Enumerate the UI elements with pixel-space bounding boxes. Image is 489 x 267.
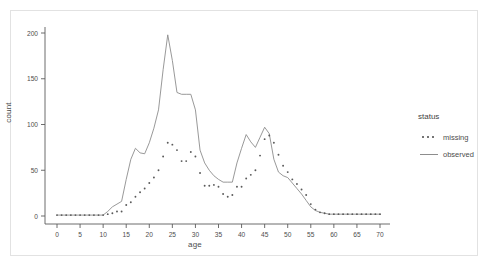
- x-axis-label: age: [0, 240, 390, 249]
- svg-text:60: 60: [330, 231, 338, 238]
- plot-svg: 050100150200 051015202530354045505560657…: [0, 0, 489, 267]
- legend-key-dotted-icon: [418, 131, 440, 143]
- legend-label-missing: missing: [443, 133, 468, 142]
- series-missing: [56, 135, 381, 217]
- svg-text:10: 10: [99, 231, 107, 238]
- svg-text:55: 55: [307, 231, 315, 238]
- legend-item-missing[interactable]: missing: [418, 130, 484, 144]
- legend-title: status: [418, 112, 484, 121]
- svg-text:150: 150: [27, 75, 38, 82]
- svg-text:70: 70: [376, 231, 384, 238]
- svg-text:35: 35: [215, 231, 223, 238]
- legend-item-observed[interactable]: observed: [418, 147, 484, 161]
- svg-text:40: 40: [238, 231, 246, 238]
- svg-text:50: 50: [284, 231, 292, 238]
- svg-text:0: 0: [34, 213, 38, 220]
- svg-text:15: 15: [123, 231, 131, 238]
- svg-text:50: 50: [31, 167, 39, 174]
- y-axis: 050100150200: [27, 27, 45, 224]
- svg-text:5: 5: [78, 231, 82, 238]
- legend-key-line-icon: [418, 148, 440, 160]
- legend: status missing observed: [418, 112, 484, 164]
- svg-text:20: 20: [146, 231, 154, 238]
- chart-figure: 050100150200 051015202530354045505560657…: [0, 0, 489, 267]
- legend-label-observed: observed: [443, 150, 474, 159]
- svg-text:200: 200: [27, 30, 38, 37]
- series-observed: [57, 35, 380, 215]
- svg-text:45: 45: [261, 231, 269, 238]
- x-axis: 0510152025303540455055606570: [45, 224, 390, 238]
- y-axis-label: count: [4, 93, 13, 133]
- svg-text:30: 30: [192, 231, 200, 238]
- svg-text:65: 65: [353, 231, 361, 238]
- svg-text:0: 0: [55, 231, 59, 238]
- svg-text:25: 25: [169, 231, 177, 238]
- svg-text:100: 100: [27, 121, 38, 128]
